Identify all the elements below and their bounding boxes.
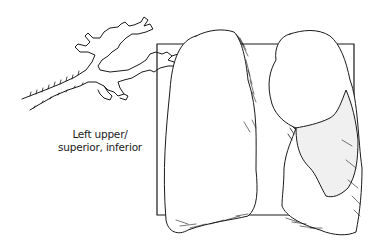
caption-line-1: Left upper/	[40, 128, 160, 141]
bronchial-tree-icon	[22, 17, 180, 110]
lung-right-shape	[269, 31, 362, 235]
lung-illustration	[0, 0, 382, 248]
caption-line-2: superior, inferior	[40, 141, 160, 154]
lung-left-shape	[164, 30, 257, 233]
figure-caption: Left upper/ superior, inferior	[40, 128, 160, 154]
